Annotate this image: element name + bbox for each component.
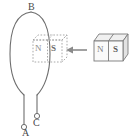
ghost-magnet-pole-n: N (35, 44, 42, 53)
solid-magnet-pole-n: N (97, 45, 104, 54)
terminal-label-a: A (22, 128, 29, 138)
wire-loop (10, 12, 50, 125)
coil-label-b: B (28, 2, 35, 12)
physics-diagram-figure: B A C N S N S (0, 0, 132, 140)
solid-magnet-pole-s: S (113, 45, 118, 54)
diagram-canvas (0, 0, 132, 140)
ghost-magnet-pole-s: S (51, 44, 56, 53)
terminal-label-c: C (33, 118, 40, 128)
motion-arrow (66, 47, 87, 54)
